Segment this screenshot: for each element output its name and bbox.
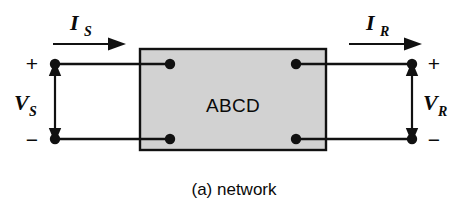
box-node-right-top (291, 59, 301, 69)
abcd-box-label: ABCD (206, 95, 260, 116)
polarity-right-top: + (428, 52, 440, 75)
box-node-left-top (165, 59, 175, 69)
two-port-network-diagram: ABCD I S I R (0, 0, 469, 208)
source-voltage-subscript: S (29, 104, 37, 119)
receiving-voltage-subscript: R (437, 104, 447, 119)
figure-caption: (a) network (191, 180, 277, 199)
box-node-right-bottom (291, 134, 301, 144)
polarity-right-bottom: − (428, 128, 440, 151)
polarity-left-top: + (26, 52, 38, 75)
circuit-canvas: ABCD I S I R (0, 0, 469, 208)
receiving-current-subscript: R (379, 24, 389, 39)
box-node-left-bottom (165, 134, 175, 144)
source-current-subscript: S (84, 24, 92, 39)
receiving-current-symbol: I (365, 10, 376, 35)
polarity-left-bottom: − (26, 128, 38, 151)
source-current-symbol: I (69, 10, 80, 35)
